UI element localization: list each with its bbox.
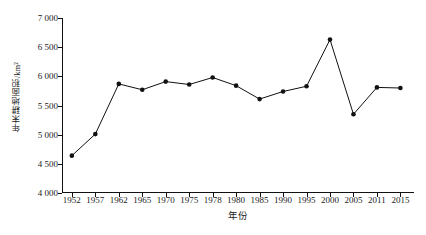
- y-tick-label: 4 500: [24, 159, 58, 168]
- data-point-marker: [281, 89, 286, 94]
- y-tick-mark: [58, 76, 62, 77]
- x-tick-label: 2011: [368, 196, 386, 205]
- x-tick-label: 1957: [86, 196, 104, 205]
- data-point-marker: [304, 84, 309, 89]
- y-tick-label: 6 500: [24, 43, 58, 52]
- x-tick-label: 1965: [133, 196, 151, 205]
- data-point-marker: [328, 37, 333, 42]
- y-tick-label: 4 000: [24, 189, 58, 198]
- data-point-marker: [140, 87, 145, 92]
- x-tick-label: 1975: [180, 196, 198, 205]
- y-tick-mark: [58, 135, 62, 136]
- x-tick-label: 1952: [63, 196, 81, 205]
- y-axis-tick-labels: 4 0004 5005 0005 5006 0006 5007 000: [24, 0, 58, 235]
- y-tick-mark: [58, 106, 62, 107]
- x-tick-label: 1980: [227, 196, 245, 205]
- plot-area: [62, 18, 414, 193]
- data-point-marker: [351, 112, 356, 117]
- y-tick-mark: [58, 18, 62, 19]
- x-tick-label: 2000: [321, 196, 339, 205]
- data-point-marker: [398, 86, 403, 91]
- data-point-marker: [234, 83, 239, 88]
- y-tick-mark: [58, 193, 62, 194]
- x-tick-label: 1978: [204, 196, 222, 205]
- line-chart: 年末耕地面积/km² 4 0004 5005 0005 5006 0006 50…: [0, 0, 426, 235]
- y-tick-mark: [58, 47, 62, 48]
- y-tick-label: 7 000: [24, 14, 58, 23]
- data-point-marker: [257, 97, 262, 102]
- y-tick-label: 5 000: [24, 130, 58, 139]
- series-line: [72, 40, 401, 156]
- y-tick-label: 6 000: [24, 72, 58, 81]
- data-point-marker: [210, 75, 215, 80]
- data-point-marker: [116, 82, 121, 87]
- x-tick-label: 1970: [157, 196, 175, 205]
- x-axis-title: 年份: [62, 212, 414, 222]
- x-tick-label: 1995: [298, 196, 316, 205]
- y-tick-label: 5 500: [24, 101, 58, 110]
- data-series-layer: [62, 18, 414, 193]
- data-point-marker: [163, 79, 168, 84]
- x-tick-label: 1990: [274, 196, 292, 205]
- x-tick-label: 2005: [344, 196, 362, 205]
- data-point-marker: [93, 132, 98, 137]
- x-tick-label: 1962: [110, 196, 128, 205]
- y-tick-mark: [58, 164, 62, 165]
- x-tick-label: 1985: [251, 196, 269, 205]
- data-point-marker: [70, 153, 75, 158]
- data-point-marker: [375, 85, 380, 90]
- x-tick-label: 2015: [391, 196, 409, 205]
- data-point-marker: [187, 82, 192, 87]
- x-axis-tick-labels: 1952195719621965197019751978198019851990…: [62, 196, 414, 210]
